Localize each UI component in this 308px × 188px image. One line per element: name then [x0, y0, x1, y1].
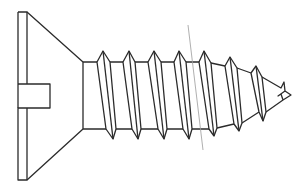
guide-line — [188, 25, 203, 150]
screw-drawing — [0, 0, 308, 188]
screw-diagram: Flat head slotted self-tapping screw — [0, 0, 308, 188]
screw-shank — [83, 62, 106, 129]
screw-threads — [97, 51, 291, 139]
screw-head — [18, 12, 83, 180]
